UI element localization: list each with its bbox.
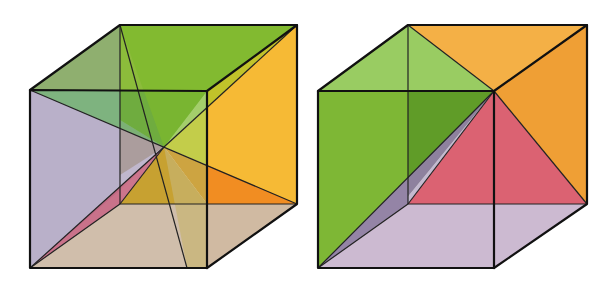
figure <box>0 0 616 289</box>
left-cube <box>30 25 297 268</box>
right-cube <box>318 25 587 268</box>
cubes-diagram <box>0 0 616 289</box>
